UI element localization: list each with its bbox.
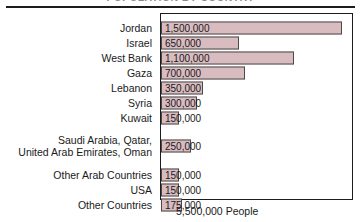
total-caption: 5,500,000 People (176, 205, 258, 217)
row-spacer (0, 125, 361, 132)
bar-track: 1,500,000 (161, 20, 361, 35)
bar-value-label: 700,000 (162, 67, 201, 78)
bar[interactable]: 150,000 (161, 111, 179, 124)
bar-row-label: Saudi Arabia, Qatar, United Arab Emirate… (0, 134, 152, 158)
bar-row-label: USA (0, 184, 152, 196)
bar-track: 700,000 (161, 65, 361, 80)
bar-track: 150,000 (161, 167, 361, 182)
chart-title: POPULATION BY COUNTRY (0, 0, 361, 3)
bar[interactable]: 650,000 (161, 36, 239, 49)
chart-title-clipped: POPULATION BY COUNTRY (0, 0, 361, 5)
bar-value-label: 150,000 (162, 184, 201, 195)
bar[interactable]: 150,000 (161, 183, 179, 196)
bar-value-label: 1,500,000 (162, 22, 210, 33)
bar-row-label: West Bank (0, 52, 152, 64)
bar[interactable]: 1,500,000 (161, 21, 342, 34)
bar-value-label: 650,000 (162, 37, 201, 48)
bar-value-label: 250,000 (162, 141, 201, 152)
bar-row[interactable]: Other Arab Countries150,000 (0, 167, 361, 182)
bar-row-label: Lebanon (0, 82, 152, 94)
bar[interactable]: 300,000 (161, 96, 197, 109)
bar-value-label: 150,000 (162, 169, 201, 180)
bar[interactable]: 250,000 (161, 140, 191, 153)
bar-row-label: Israel (0, 37, 152, 49)
bar-row-label: Syria (0, 97, 152, 109)
bar-value-label: 300,000 (162, 97, 201, 108)
title-divider-rule (6, 6, 355, 8)
bar-value-label: 150,000 (162, 112, 201, 123)
bar-row[interactable]: Syria300,000 (0, 95, 361, 110)
bar-track: 150,000 (161, 110, 361, 125)
bar-row-label: Jordan (0, 22, 152, 34)
bar-track: 650,000 (161, 35, 361, 50)
bar[interactable]: 1,100,000 (161, 51, 294, 64)
bar-row-label: Other Arab Countries (0, 169, 152, 181)
bar-track: 300,000 (161, 95, 361, 110)
bar-row[interactable]: Lebanon350,000 (0, 80, 361, 95)
bar-track: 350,000 (161, 80, 361, 95)
bar-row-label: Gaza (0, 67, 152, 79)
bar-row-label: Kuwait (0, 112, 152, 124)
bar-row[interactable]: West Bank1,100,000 (0, 50, 361, 65)
bar[interactable]: 350,000 (161, 81, 203, 94)
bar-track: 1,100,000 (161, 50, 361, 65)
bar-row[interactable]: Saudi Arabia, Qatar, United Arab Emirate… (0, 132, 361, 160)
row-spacer (0, 160, 361, 167)
bar-row[interactable]: USA150,000 (0, 182, 361, 197)
bar-value-label: 1,100,000 (162, 52, 210, 63)
bar-rows-container: Jordan1,500,000Israel650,000West Bank1,1… (0, 20, 361, 212)
bar-row-label: Other Countries (0, 199, 152, 211)
bar-track: 150,000 (161, 182, 361, 197)
bar-row[interactable]: Jordan1,500,000 (0, 20, 361, 35)
bar-row[interactable]: Kuwait150,000 (0, 110, 361, 125)
population-bar-chart-figure: POPULATION BY COUNTRY Jordan1,500,000Isr… (0, 0, 361, 222)
bar-row[interactable]: Israel650,000 (0, 35, 361, 50)
bar-track: 250,000 (161, 132, 361, 160)
bar-row[interactable]: Gaza700,000 (0, 65, 361, 80)
bar[interactable]: 700,000 (161, 66, 245, 79)
bar[interactable]: 150,000 (161, 168, 179, 181)
bar-value-label: 350,000 (162, 82, 201, 93)
